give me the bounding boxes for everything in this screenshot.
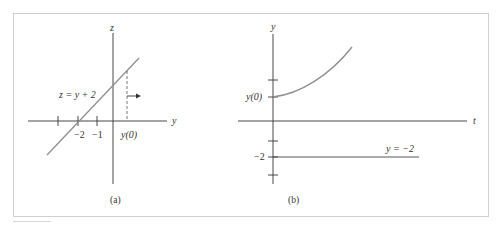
solution-curve <box>273 47 352 97</box>
tick-label-y0: y(0) <box>120 129 138 141</box>
line-equation-label: z = y + 2 <box>58 89 96 100</box>
figure-canvas: z y z = y + 2 −2 −1 y(0) (a) y t y(0) −2… <box>0 0 501 233</box>
tick-label-minus-two: −2 <box>74 129 85 140</box>
arrow-right-icon <box>136 94 141 99</box>
y-axis-label-b: y <box>270 21 276 32</box>
panel-b: y t y(0) −2 y = −2 (b) <box>238 21 476 206</box>
line-z-equals-y-plus-2 <box>47 58 139 155</box>
panel-b-caption: (b) <box>288 195 299 206</box>
t-axis-label: t <box>473 115 476 126</box>
tick-label-minus-two-b: −2 <box>254 151 265 162</box>
tick-label-minus-one: −1 <box>92 129 103 140</box>
z-axis-label: z <box>109 22 114 33</box>
y-axis-label: y <box>171 115 177 126</box>
panel-a-caption: (a) <box>110 195 121 206</box>
figure-label-rule <box>13 221 51 222</box>
panel-a: z y z = y + 2 −2 −1 y(0) (a) <box>28 22 177 206</box>
equilibrium-label: y = −2 <box>385 143 414 154</box>
tick-label-y0-b: y(0) <box>245 91 263 103</box>
